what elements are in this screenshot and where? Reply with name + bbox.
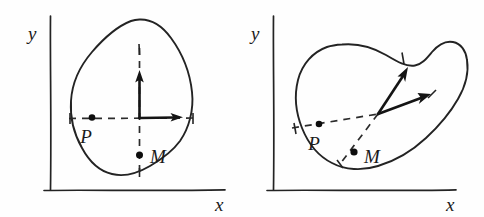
panel-right-canvas: P M y x bbox=[242, 0, 484, 217]
panel-right: P M y x bbox=[242, 0, 484, 217]
guide-tick-top bbox=[139, 44, 140, 55]
body-frame-axis-horizontal-shaft bbox=[140, 118, 175, 119]
x-axis-label: x bbox=[214, 194, 224, 215]
panel-left-canvas: P M y x bbox=[0, 0, 242, 217]
guide-tick-left bbox=[294, 123, 296, 134]
horizontal-axis bbox=[44, 190, 225, 191]
chord-dashed-guide bbox=[292, 114, 378, 128]
panel-left: P M y x bbox=[0, 0, 242, 217]
figure-root: P M y x bbox=[0, 0, 484, 217]
y-axis-label: y bbox=[249, 23, 260, 44]
point-p-label: P bbox=[307, 133, 320, 154]
x-axis-label: x bbox=[445, 194, 455, 215]
point-p-dot bbox=[316, 121, 323, 128]
point-m-label: M bbox=[149, 146, 167, 167]
point-m-dot bbox=[350, 148, 357, 155]
horizontal-axis bbox=[267, 190, 456, 191]
point-p-dot bbox=[89, 114, 96, 121]
y-axis-label: y bbox=[26, 23, 37, 44]
point-m-label: M bbox=[363, 146, 381, 167]
rigid-body-outline bbox=[71, 19, 193, 175]
guide-tick-top bbox=[402, 53, 404, 65]
point-p-label: P bbox=[79, 126, 92, 147]
rigid-body-outline bbox=[296, 42, 468, 169]
point-m-dot bbox=[136, 152, 143, 159]
